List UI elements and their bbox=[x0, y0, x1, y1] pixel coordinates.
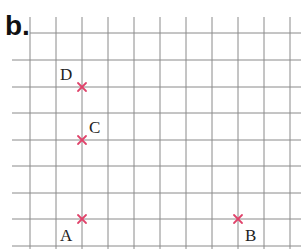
grid-lines bbox=[12, 17, 301, 249]
point-label-a: A bbox=[60, 227, 72, 244]
exercise-label: b. bbox=[5, 12, 30, 40]
point-label-d: D bbox=[60, 66, 72, 83]
point-label-c: C bbox=[89, 119, 100, 136]
grid-diagram: b. D C A B bbox=[0, 0, 301, 249]
square-grid bbox=[0, 0, 301, 249]
point-label-b: B bbox=[245, 227, 256, 244]
